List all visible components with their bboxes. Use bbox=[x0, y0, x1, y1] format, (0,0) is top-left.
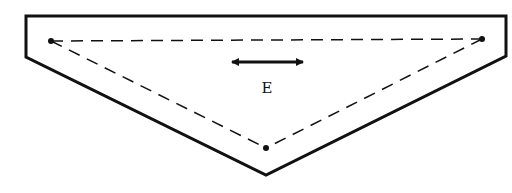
label-e: E bbox=[262, 79, 273, 97]
bottom-point bbox=[263, 145, 269, 151]
diagram-canvas: E bbox=[0, 0, 512, 193]
left-point bbox=[48, 38, 54, 44]
diagram-svg: E bbox=[0, 0, 512, 193]
dashed-edge-top bbox=[51, 39, 482, 41]
dashed-edge-left bbox=[51, 41, 266, 148]
right-point bbox=[479, 36, 485, 42]
dashed-edge-right bbox=[266, 39, 482, 148]
